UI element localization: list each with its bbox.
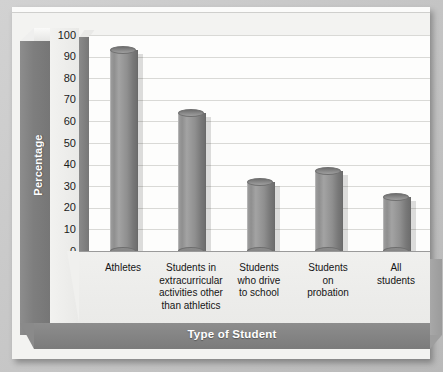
bar[interactable] bbox=[383, 197, 411, 251]
chart-floor: AthletesStudents inextracurricularactivi… bbox=[79, 251, 430, 324]
y-tick-label: 10 bbox=[50, 224, 76, 235]
bottom-band-left-wedge bbox=[20, 323, 34, 349]
x-category-label-line: than athletics bbox=[159, 300, 223, 313]
x-category-label-line: activities other bbox=[159, 287, 223, 300]
y-tick-label: 60 bbox=[50, 116, 76, 127]
chart-page: Percentage 1009080706050403020100 Athlet… bbox=[0, 0, 443, 372]
bar[interactable] bbox=[110, 50, 138, 251]
sheet-top-bevel bbox=[12, 7, 430, 13]
x-category-label-line: extracurricular bbox=[159, 275, 223, 288]
bar-top-ellipse bbox=[383, 193, 409, 201]
y-tick-label: 90 bbox=[50, 51, 76, 62]
y-tick-label: 30 bbox=[50, 181, 76, 192]
x-category-label: Students inextracurricularactivities oth… bbox=[159, 262, 223, 312]
plot-area bbox=[89, 35, 430, 251]
bar[interactable] bbox=[178, 113, 206, 251]
y-tick-label: 50 bbox=[50, 138, 76, 149]
bar-top-ellipse bbox=[178, 109, 204, 117]
x-category-label-line: who drive bbox=[227, 275, 291, 288]
x-category-label-line: Students bbox=[296, 262, 360, 275]
bar-top-ellipse bbox=[110, 46, 136, 54]
bar[interactable] bbox=[315, 171, 343, 251]
x-category-label-line: Students bbox=[227, 262, 291, 275]
x-category-label: Allstudents bbox=[364, 262, 428, 287]
x-axis-title: Type of Student bbox=[34, 328, 430, 340]
x-category-label-line: on bbox=[296, 275, 360, 288]
x-category-label-line: to school bbox=[227, 287, 291, 300]
y-axis-wall: Percentage bbox=[20, 41, 50, 335]
y-tick-label: 100 bbox=[50, 30, 76, 41]
y-tick-label: 80 bbox=[50, 73, 76, 84]
bar-top-ellipse bbox=[247, 178, 273, 186]
x-category-label-line: students bbox=[364, 275, 428, 288]
x-category-label-line: probation bbox=[296, 287, 360, 300]
x-category-label: Studentsonprobation bbox=[296, 262, 360, 300]
gridline bbox=[89, 35, 430, 36]
floor-left-skirt bbox=[67, 251, 79, 323]
chart-sheet: Percentage 1009080706050403020100 Athlet… bbox=[12, 7, 430, 359]
x-category-label-line: Athletes bbox=[91, 262, 155, 275]
y-tick-label: 20 bbox=[50, 202, 76, 213]
bar[interactable] bbox=[247, 182, 275, 251]
x-category-label: Athletes bbox=[91, 262, 155, 275]
y-tick-label: 40 bbox=[50, 159, 76, 170]
y-axis-title: Percentage bbox=[32, 95, 44, 235]
bar-top-ellipse bbox=[315, 167, 341, 175]
floor-right-depth-shadow bbox=[430, 259, 442, 335]
x-axis-band: Type of Student bbox=[34, 323, 430, 349]
bottom-band-right-shadow bbox=[430, 335, 442, 349]
x-category-label: Studentswho driveto school bbox=[227, 262, 291, 300]
plot-inner-left-wall bbox=[79, 37, 89, 257]
y-tick-label: 70 bbox=[50, 94, 76, 105]
x-category-label-line: All bbox=[364, 262, 428, 275]
x-category-label-line: Students in bbox=[159, 262, 223, 275]
